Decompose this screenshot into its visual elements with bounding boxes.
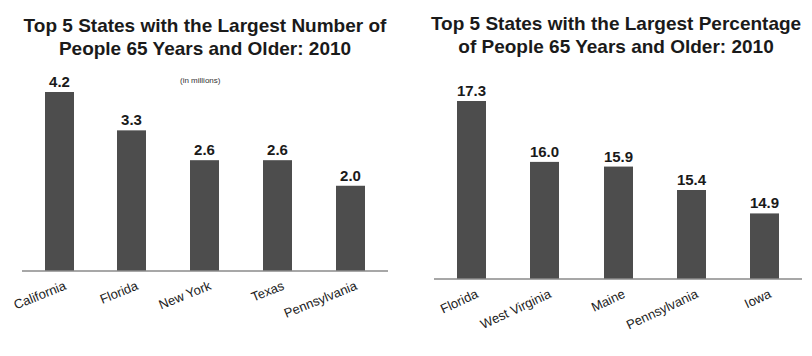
data-label: 2.0: [340, 167, 361, 184]
data-label: 4.2: [49, 73, 70, 90]
data-label: 2.6: [267, 141, 288, 158]
bar: [45, 92, 74, 271]
charts-canvas: 4.2California3.3Florida2.6New York2.6Tex…: [0, 0, 812, 356]
chart-2: 17.3Florida16.0West Virginia15.9Maine15.…: [434, 82, 802, 332]
data-label: 15.9: [604, 148, 633, 165]
bar: [750, 213, 779, 279]
bar: [530, 162, 559, 279]
data-label: 17.3: [457, 82, 486, 99]
chart-1: 4.2California3.3Florida2.6New York2.6Tex…: [12, 73, 388, 321]
data-label: 2.6: [194, 141, 215, 158]
bar: [336, 186, 365, 271]
bar: [117, 130, 146, 271]
data-label: 16.0: [530, 143, 559, 160]
x-tick-label: Iowa: [742, 286, 774, 312]
x-tick-label: Pennsylvania: [282, 278, 360, 321]
bar: [604, 167, 633, 279]
x-tick-label: California: [12, 278, 69, 313]
x-tick-label: Florida: [438, 286, 481, 317]
x-tick-label: Maine: [589, 286, 627, 315]
bar: [190, 160, 219, 271]
data-label: 14.9: [750, 194, 779, 211]
data-label: 15.4: [677, 171, 707, 188]
bar: [677, 190, 706, 279]
x-tick-label: New York: [157, 278, 214, 313]
data-label: 3.3: [121, 111, 142, 128]
bar: [263, 160, 292, 271]
x-tick-label: West Virginia: [478, 286, 554, 332]
x-tick-label: Florida: [98, 278, 141, 307]
x-tick-label: Texas: [249, 278, 287, 305]
x-tick-label: Pennsylvania: [624, 286, 701, 333]
bar: [457, 101, 486, 279]
